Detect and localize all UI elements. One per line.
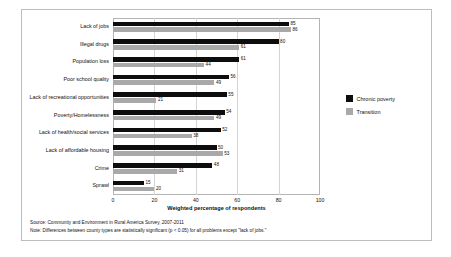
x-tick-label: 100 [316, 197, 325, 203]
bar-chronic-poverty: 85 [113, 22, 289, 27]
bar-chronic-poverty: 61 [113, 57, 239, 62]
bar-value-label: 21 [158, 98, 163, 103]
bar-value-label: 31 [179, 169, 184, 174]
bar-transition: 38 [113, 134, 192, 139]
category-row: Crime4831 [113, 160, 320, 178]
footnote-note: Note: Differences between county types a… [30, 227, 424, 235]
bar-chronic-poverty: 54 [113, 110, 225, 115]
category-label: Illegal drugs [80, 36, 109, 54]
bar-chronic-poverty: 56 [113, 75, 229, 80]
category-label: Poor school quality [63, 71, 109, 89]
category-label: Lack of recreational opportunities [30, 89, 109, 107]
category-row: Population loss6144 [113, 53, 320, 71]
bar-transition: 31 [113, 169, 177, 174]
x-axis-title: Weighted percentage of respondents [113, 205, 320, 211]
legend-item-chronic-poverty[interactable]: Chronic poverty [346, 92, 428, 105]
footnote-source: Source: Community and Environment in Rur… [30, 219, 424, 227]
bar-value-label: 54 [226, 110, 231, 115]
bar-transition: 49 [113, 116, 214, 121]
x-tick-label: 0 [112, 197, 115, 203]
bar-value-label: 61 [241, 45, 246, 50]
bar-chronic-poverty: 50 [113, 145, 217, 150]
category-label: Poverty/Homelessness [54, 107, 109, 125]
bar-value-label: 49 [216, 80, 221, 85]
category-row: Lack of affordable housing5053 [113, 142, 320, 160]
bar-chronic-poverty: 55 [113, 92, 227, 97]
bar-chronic-poverty: 80 [113, 39, 279, 44]
category-row: Poverty/Homelessness5449 [113, 107, 320, 125]
bar-value-label: 38 [193, 134, 198, 139]
bar-transition: 44 [113, 63, 204, 68]
category-row: Lack of jobs8586 [113, 18, 320, 36]
bar-transition: 61 [113, 45, 239, 50]
category-row: Poor school quality5649 [113, 71, 320, 89]
bar-chart-figure: Lack of jobs8586Illegal drugs8061Populat… [21, 9, 432, 241]
footnotes: Source: Community and Environment in Rur… [30, 219, 424, 234]
bar-value-label: 50 [218, 145, 223, 150]
bar-transition: 86 [113, 27, 291, 32]
bar-value-label: 56 [230, 75, 235, 80]
chart-legend: Chronic povertyTransition [346, 92, 428, 118]
category-label: Sprawl [93, 177, 109, 195]
category-label: Lack of jobs [80, 18, 109, 36]
bar-value-label: 15 [146, 181, 151, 186]
category-label: Population loss [72, 53, 109, 71]
bar-chronic-poverty: 15 [113, 181, 144, 186]
bar-value-label: 52 [222, 128, 227, 133]
bar-transition: 53 [113, 151, 223, 156]
bar-value-label: 44 [206, 63, 211, 68]
x-tick-label: 20 [152, 197, 158, 203]
bar-chronic-poverty: 48 [113, 163, 212, 168]
legend-label: Transition [357, 109, 381, 115]
bar-value-label: 53 [224, 151, 229, 156]
plot-area: Lack of jobs8586Illegal drugs8061Populat… [113, 18, 320, 195]
category-row: Lack of recreational opportunities5521 [113, 89, 320, 107]
legend-swatch-icon [346, 108, 353, 115]
x-tick-label: 40 [193, 197, 199, 203]
legend-item-transition[interactable]: Transition [346, 105, 428, 118]
legend-swatch-icon [346, 95, 353, 102]
category-row: Illegal drugs8061 [113, 36, 320, 54]
bar-value-label: 48 [214, 163, 219, 168]
bar-value-label: 49 [216, 116, 221, 121]
category-label: Crime [95, 160, 109, 178]
bar-transition: 21 [113, 98, 156, 103]
bar-transition: 20 [113, 187, 154, 192]
bar-transition: 49 [113, 80, 214, 85]
category-label: Lack of health/social services [39, 124, 109, 142]
bar-value-label: 55 [228, 92, 233, 97]
legend-label: Chronic poverty [357, 96, 396, 102]
bar-value-label: 20 [156, 187, 161, 192]
bar-value-label: 80 [280, 39, 285, 44]
x-tick-label: 80 [276, 197, 282, 203]
category-row: Sprawl1520 [113, 177, 320, 195]
bar-chronic-poverty: 52 [113, 128, 221, 133]
x-tick-label: 60 [234, 197, 240, 203]
bar-value-label: 61 [241, 57, 246, 62]
category-label: Lack of affordable housing [46, 142, 109, 160]
category-row: Lack of health/social services5238 [113, 124, 320, 142]
bar-value-label: 86 [293, 27, 298, 32]
